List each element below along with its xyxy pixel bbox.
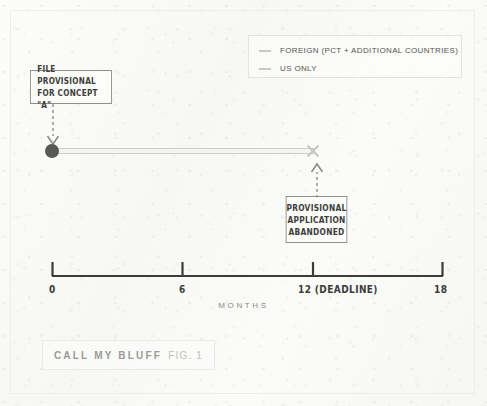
legend-swatch-us-only: [259, 68, 271, 70]
legend-label-us-only: US ONLY: [280, 64, 317, 73]
legend-item-foreign: FOREIGN (PCT + ADDITIONAL COUNTRIES): [259, 43, 461, 58]
timeline-start-dot-icon: [45, 144, 59, 158]
legend-swatch-foreign: [259, 50, 271, 52]
connector-arrow-up-icon: [308, 162, 326, 198]
callout-abandoned-line2: APPLICATION: [287, 214, 345, 226]
axis-tick-label-6: 6: [179, 284, 186, 295]
callout-file-provisional: FILE PROVISIONAL FOR CONCEPT "A": [30, 70, 112, 104]
axis-tick-label-18: 18: [434, 284, 447, 295]
callout-abandoned-line1: PROVISIONAL: [286, 202, 346, 214]
caption-title: CALL MY BLUFF: [54, 350, 162, 361]
callout-provisional-abandoned: PROVISIONAL APPLICATION ABANDONED: [286, 196, 348, 243]
legend-item-us-only: US ONLY: [259, 61, 461, 76]
caption-figure-number: FIG. 1: [168, 350, 203, 361]
legend: FOREIGN (PCT + ADDITIONAL COUNTRIES) US …: [248, 35, 462, 78]
axis-tick-label-0: 0: [49, 284, 56, 295]
axis-title-months: MONTHS: [0, 301, 487, 310]
callout-file-provisional-line1: FILE PROVISIONAL: [37, 63, 111, 87]
connector-arrow-down-icon: [44, 104, 62, 148]
figure-canvas: FOREIGN (PCT + ADDITIONAL COUNTRIES) US …: [0, 0, 487, 406]
timeline-bar: [52, 148, 314, 154]
timeline-end-x-icon: [306, 144, 320, 158]
callout-abandoned-line3: ABANDONED: [289, 226, 345, 238]
legend-label-foreign: FOREIGN (PCT + ADDITIONAL COUNTRIES): [280, 46, 458, 55]
axis-tick-label-12: 12 (DEADLINE): [298, 284, 378, 295]
figure-caption: CALL MY BLUFF FIG. 1: [42, 340, 215, 370]
x-axis: [45, 258, 450, 280]
